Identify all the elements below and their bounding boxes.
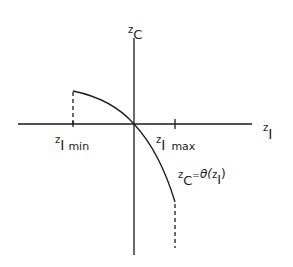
function-label: zC=θ(zI) — [178, 167, 226, 188]
y-axis-label: zC — [128, 24, 142, 42]
x-axis-label: zI — [263, 122, 272, 142]
z-min-label: zImin — [55, 134, 89, 153]
diagram-canvas: zC zI zImin zImax zC=θ(zI) — [0, 0, 293, 267]
z-max-label: zImax — [156, 134, 196, 153]
